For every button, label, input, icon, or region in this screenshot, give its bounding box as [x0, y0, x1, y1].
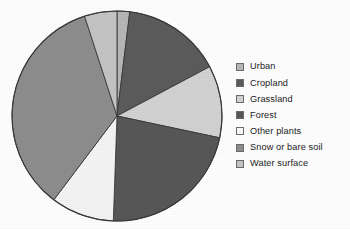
legend-swatch-icon: [236, 160, 244, 168]
legend-item-label: Other plants: [250, 127, 301, 136]
legend-swatch-icon: [236, 111, 244, 119]
legend-item[interactable]: Grassland: [236, 91, 348, 107]
legend-swatch-icon: [236, 79, 244, 87]
legend-item[interactable]: Forest: [236, 107, 348, 123]
legend-item-label: Urban: [250, 62, 276, 71]
legend-item-label: Water surface: [250, 159, 308, 168]
legend-item-label: Forest: [250, 111, 277, 120]
legend-item-label: Grassland: [250, 95, 293, 104]
legend-item-label: Snow or bare soil: [250, 143, 323, 152]
pie-slice-group: [12, 11, 222, 221]
legend-swatch-icon: [236, 63, 244, 71]
legend-item[interactable]: Other plants: [236, 123, 348, 139]
legend-swatch-icon: [236, 144, 244, 152]
legend-item[interactable]: Water surface: [236, 156, 348, 172]
legend-item-label: Cropland: [250, 79, 288, 88]
pie-chart-svg: [0, 0, 235, 229]
legend-item[interactable]: Cropland: [236, 75, 348, 91]
legend-item[interactable]: Urban: [236, 59, 348, 75]
pie-chart: [0, 0, 235, 229]
chart-canvas: UrbanCroplandGrasslandForestOther plants…: [0, 0, 350, 229]
chart-legend: UrbanCroplandGrasslandForestOther plants…: [236, 59, 348, 172]
legend-swatch-icon: [236, 95, 244, 103]
legend-item[interactable]: Snow or bare soil: [236, 139, 348, 155]
legend-swatch-icon: [236, 127, 244, 135]
